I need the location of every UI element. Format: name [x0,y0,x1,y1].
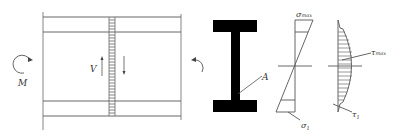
web [231,32,240,102]
moment-label: M [17,78,28,88]
tau-max-label: τmax [371,48,386,57]
shear-arrow-up-icon [101,56,104,76]
sigma-max-label: σmax [296,10,312,19]
tau-1-label: τ1 [352,110,360,120]
top-flange [213,20,257,32]
beam-stress-diagram: M V A σmax σ1 [0,0,400,139]
shear-label: V [90,64,98,74]
normal-stress-diagram [276,20,313,120]
shear-arrow-down-icon [123,56,126,75]
moment-arrow-left-icon [13,55,33,73]
bottom-flange [213,100,257,112]
shear-stress-diagram [328,20,371,112]
moment-arrow-right-icon [191,57,203,72]
point-a-leader [238,76,262,94]
i-beam-cross-section [213,20,257,112]
beam-side-view [13,12,203,130]
sigma-1-label: σ1 [301,121,310,131]
point-a-label: A [261,72,269,82]
